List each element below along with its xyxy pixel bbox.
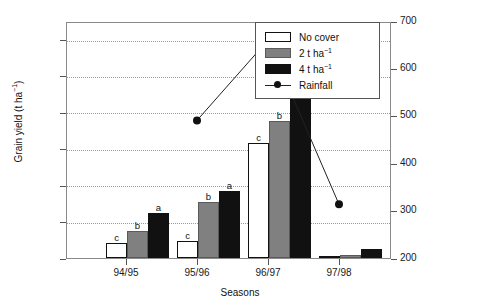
legend-item-nocover: No cover: [256, 29, 379, 45]
bar-significance-label: a: [218, 181, 242, 191]
y-tick-mark-right: [391, 22, 397, 23]
legend-label: 4 t ha−1: [299, 64, 332, 75]
legend-item-rainfall: Rainfall: [256, 77, 379, 93]
y-tick-label-right: 600: [400, 63, 444, 73]
x-tick-label: 95/96: [162, 268, 232, 278]
y-tick-mark-right: [391, 116, 397, 117]
y-axis-title-left: Grain yield (t ha−1): [13, 42, 24, 202]
legend-label: 2 t ha−1: [299, 48, 332, 59]
bar-4t: [361, 249, 382, 258]
y-tick-label-right: 700: [400, 16, 444, 26]
superscript-minus-one: −1: [324, 62, 332, 69]
bar-2t: [127, 231, 148, 258]
bar-4t: [148, 213, 169, 259]
gridline: [67, 150, 390, 151]
gridline: [67, 113, 390, 114]
bar-significance-label: b: [126, 221, 150, 231]
x-tick-label: 94/95: [91, 268, 161, 278]
bar-nocover: [319, 256, 340, 258]
bar-2t: [269, 121, 290, 258]
legend-swatch-2t: [265, 48, 291, 58]
legend-label: No cover: [299, 32, 339, 43]
y-tick-mark-right: [391, 211, 397, 212]
legend-swatch-nocover: [265, 32, 291, 42]
y-tick-label-right: 200: [400, 253, 444, 263]
bar-nocover: [106, 243, 127, 258]
bar-significance-label: c: [105, 233, 129, 243]
legend-swatch-rainfall-line-icon: [265, 80, 291, 90]
y-tick-label-right: 400: [400, 158, 444, 168]
bar-nocover: [248, 143, 269, 258]
x-tick-mark: [268, 259, 269, 265]
bar-nocover: [177, 241, 198, 259]
superscript-minus-one: −1: [11, 84, 18, 92]
legend-swatch-4t: [265, 64, 291, 74]
y-tick-label-right: 300: [400, 205, 444, 215]
x-tick-label: 97/98: [304, 268, 374, 278]
chart-figure: 0 1 2 3 4 5 6 200 300 400 500 600 700 Gr…: [0, 0, 480, 307]
y-tick-label-right: 500: [400, 110, 444, 120]
chart-legend: No cover 2 t ha−1 4 t ha−1 Rainfall: [255, 22, 380, 99]
legend-item-2t: 2 t ha−1: [256, 45, 379, 61]
bar-4t: [290, 98, 311, 258]
superscript-minus-one: −1: [324, 46, 332, 53]
bar-significance-label: c: [176, 231, 200, 241]
x-tick-label: 96/97: [233, 268, 303, 278]
x-tick-mark: [339, 259, 340, 265]
y-tick-mark-right: [391, 259, 397, 260]
x-tick-mark: [197, 259, 198, 265]
legend-label: Rainfall: [299, 80, 332, 91]
bar-significance-label: b: [197, 192, 221, 202]
y-tick-mark-right: [391, 69, 397, 70]
x-tick-mark: [126, 259, 127, 265]
legend-item-4t: 4 t ha−1: [256, 61, 379, 77]
y-tick-mark-right: [391, 164, 397, 165]
bar-significance-label: c: [247, 133, 271, 143]
bar-2t: [340, 255, 361, 258]
bar-significance-label: b: [268, 111, 292, 121]
bar-2t: [198, 202, 219, 259]
bar-significance-label: a: [147, 203, 171, 213]
bar-4t: [219, 191, 240, 258]
x-axis-title: Seasons: [0, 287, 480, 298]
